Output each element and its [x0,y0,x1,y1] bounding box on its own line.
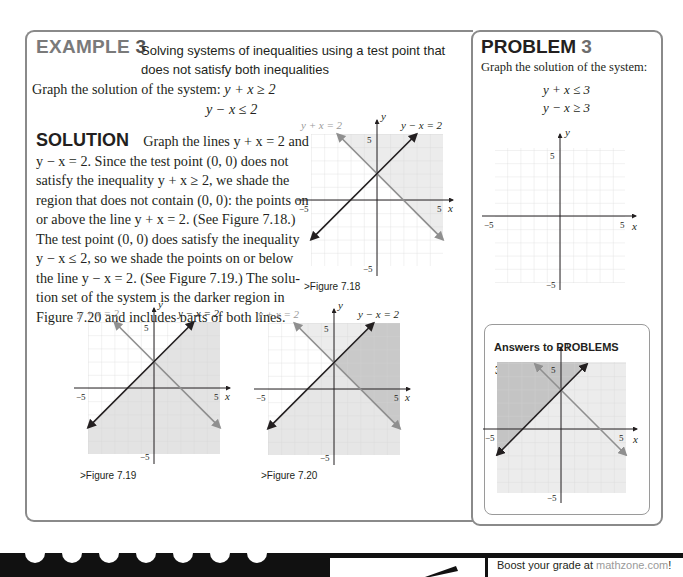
figure-7-19-caption: >Figure 7.19 [80,470,136,481]
svg-text:−5: −5 [547,493,557,503]
inequality-2: y − x ≤ 2 [206,100,257,120]
solution-line: region that does not contain (0, 0): the… [36,191,296,211]
example-prompt: Graph the solution of the system: y + x … [32,80,276,100]
solution-line: or above the line y + x = 2. (See Figure… [36,210,296,230]
figure-7-19-graph: 5 −5 −5 5 x y y + x = 2 y − x = 2 [74,298,244,468]
solution-line: The test point (0, 0) does satisfy the i… [36,230,296,250]
footer-image-panel [330,558,485,577]
svg-text:5: 5 [550,151,555,161]
svg-text:5: 5 [394,393,399,403]
footer-pencil-graphic [420,562,460,577]
problem-title: PROBLEM 3 [481,36,592,58]
svg-text:x: x [224,390,230,402]
solution-line: Graph the lines y + x = 2 and [143,133,309,149]
solution-line: the line y − x = 2. (See Figure 7.19.) T… [36,269,296,289]
svg-text:5: 5 [144,323,149,333]
problem-number: 3 [581,36,592,57]
svg-text:5: 5 [324,324,329,334]
problem-inequality-2: y − x ≥ 3 [543,100,590,116]
svg-text:−5: −5 [140,452,150,462]
svg-text:y + x = 2: y + x = 2 [77,307,120,319]
svg-text:y: y [337,299,343,311]
example-subtitle-line2: does not satisfy both inequalities [141,60,461,79]
figure-7-18-graph: 5 −5 −5 5 x y y + x = 2 y − x = 2 [297,110,467,280]
example-subtitle-line1: Solving systems of inequalities using a … [141,41,461,60]
footer-promo-text: Boost your grade at mathzone.com! [497,559,671,571]
svg-text:−5: −5 [363,264,373,274]
svg-text:y − x = 2: y − x = 2 [177,307,220,319]
svg-text:x: x [631,220,637,232]
solution-line: y − x ≤ 2, so we shade the points on or … [36,249,296,269]
figure-7-20-graph: 5 −5 −5 5 x y y + x = 2 y − x = 2 [254,299,424,469]
problem-label: PROBLEM [481,36,576,57]
problem-blank-graph[interactable]: 5 −5 −5 5 x y [480,126,650,296]
svg-text:y − x = 2: y − x = 2 [400,119,443,131]
solution-label: SOLUTION [36,130,129,150]
svg-text:x: x [632,433,638,445]
svg-text:−5: −5 [320,453,330,463]
prompt-text: Graph the solution of the system: [32,81,221,97]
svg-text:5: 5 [620,220,625,230]
problem-prompt: Graph the solution of the system: [481,60,647,75]
svg-text:5: 5 [367,135,372,145]
answer-graph: 5 −5 −5 5 x y [481,339,651,509]
footer-scallops [0,553,270,567]
svg-text:x: x [447,202,453,214]
svg-text:y: y [565,339,571,351]
figure-7-20-caption: >Figure 7.20 [261,470,317,481]
example-label: EXAMPLE [36,36,130,57]
svg-text:y: y [380,110,386,122]
svg-text:−5: −5 [484,220,494,230]
figure-7-18-caption: >Figure 7.18 [304,281,360,292]
svg-text:5: 5 [551,365,556,375]
svg-text:y + x = 2: y + x = 2 [300,119,343,131]
promo-prefix: Boost your grade at [497,559,596,571]
svg-text:y + x = 2: y + x = 2 [257,308,300,320]
svg-text:y − x = 2: y − x = 2 [357,308,400,320]
problem-inequality-1: y + x ≤ 3 [543,82,590,98]
svg-text:5: 5 [619,433,624,443]
svg-text:5: 5 [437,204,442,214]
svg-text:−5: −5 [256,393,266,403]
promo-suffix: ! [668,559,671,571]
inequality-1: y + x ≥ 2 [224,81,275,97]
svg-text:y: y [564,126,570,138]
mathzone-link[interactable]: mathzone.com [596,559,668,571]
svg-text:−5: −5 [299,204,309,214]
svg-text:x: x [404,391,410,403]
svg-text:−5: −5 [485,433,495,443]
svg-text:y: y [157,298,163,310]
solution-line: satisfy the inequality y + x ≥ 2, we sha… [36,171,296,191]
svg-text:5: 5 [214,392,219,402]
example-subtitle: Solving systems of inequalities using a … [141,41,461,79]
example-title: EXAMPLE 3 [36,36,146,58]
svg-text:−5: −5 [76,392,86,402]
svg-text:−5: −5 [546,280,556,290]
solution-line: y − x = 2. Since the test point (0, 0) d… [36,152,296,172]
